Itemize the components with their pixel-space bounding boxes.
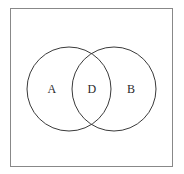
- intersection-d-label: D: [88, 82, 97, 96]
- venn-diagram-figure: A D B: [0, 0, 184, 174]
- set-a-circle: [27, 47, 111, 131]
- set-b-circle: [72, 47, 156, 131]
- set-b-label: B: [127, 82, 135, 96]
- venn-diagram-canvas: A D B: [0, 0, 184, 174]
- set-a-label: A: [48, 82, 57, 96]
